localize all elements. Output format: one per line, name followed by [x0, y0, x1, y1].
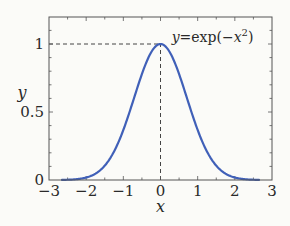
annotation-eq: =exp(− — [180, 29, 234, 45]
y-tick-label: 1 — [34, 35, 44, 53]
y-tick-label: 0.5 — [20, 103, 44, 121]
y-axis-label: y — [16, 83, 27, 102]
x-tick-label: −1 — [112, 182, 134, 200]
curve-annotation: y=exp(−x2) — [171, 27, 254, 45]
chart: −3−2−10123 00.51 x y y=exp(−x2) — [0, 0, 290, 226]
x-tick-label: −2 — [75, 182, 97, 200]
y-tick-labels: 00.51 — [20, 35, 44, 189]
x-axis-label: x — [156, 197, 165, 216]
annotation-close-paren: ) — [248, 29, 253, 45]
annotation-x: x — [234, 29, 242, 45]
x-tick-label: 1 — [193, 182, 203, 200]
x-tick-label: 2 — [230, 182, 240, 200]
x-tick-label: 3 — [267, 182, 277, 200]
y-tick-label: 0 — [34, 171, 44, 189]
reference-lines — [49, 44, 161, 180]
